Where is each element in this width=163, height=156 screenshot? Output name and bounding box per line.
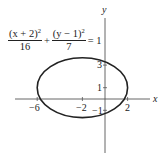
fraction-y-term: (y − 1)2 7 xyxy=(52,28,86,53)
ellipse-equation: (x + 2)2 16 + (y − 1)2 7 = 1 xyxy=(8,25,104,55)
x-tick-label: −2 xyxy=(76,102,87,113)
fraction-x-term: (x + 2)2 16 xyxy=(8,28,42,53)
y-tick-label: 1 xyxy=(97,82,102,93)
y-term-denominator: 7 xyxy=(66,41,71,53)
y-term-numerator: (y − 1)2 xyxy=(52,28,86,42)
x-tick-label: 2 xyxy=(125,102,130,113)
equation-rhs: = 1 xyxy=(88,35,102,46)
x-axis-label: x xyxy=(152,93,158,104)
x-term-base: (x + 2) xyxy=(9,28,38,39)
x-tick-label: −6 xyxy=(29,102,40,113)
graph-canvas: x y −6 −2 2 3 1 −1 xyxy=(0,0,163,156)
y-axis-label: y xyxy=(101,4,107,15)
x-term-exponent: 2 xyxy=(38,27,41,34)
x-term-numerator: (x + 2)2 xyxy=(8,28,42,42)
ellipse-graph: x y −6 −2 2 3 1 −1 (x + 2)2 16 + (y − 1)… xyxy=(0,0,163,156)
y-term-base: (y − 1) xyxy=(53,28,82,39)
x-term-denominator: 16 xyxy=(20,41,31,53)
plus-sign: + xyxy=(44,35,50,46)
y-term-exponent: 2 xyxy=(82,27,85,34)
